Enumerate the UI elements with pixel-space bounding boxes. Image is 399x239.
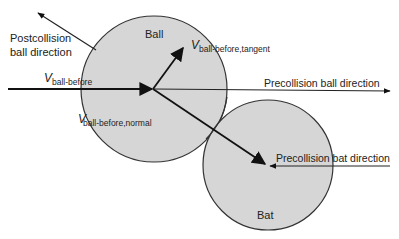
postcollision-label: Postcollision ball direction bbox=[10, 31, 72, 59]
precollision-bat-direction-label: Precollision bat direction bbox=[276, 153, 390, 164]
v-ball-before-subscript: ball-before bbox=[52, 77, 92, 87]
v-tangent-subscript: ball-before,tangent bbox=[199, 44, 270, 54]
bat-label: Bat bbox=[257, 210, 274, 221]
v-symbol: V bbox=[191, 38, 199, 52]
ball-label: Ball bbox=[145, 29, 163, 40]
v-normal-subscript: ball-before,normal bbox=[83, 118, 152, 128]
v-ball-before-label: Vball-before bbox=[44, 72, 92, 84]
v-normal-label: Vball-before,normal bbox=[78, 113, 155, 125]
postcollision-label-line1: Postcollision bbox=[10, 31, 72, 45]
postcollision-label-line2: ball direction bbox=[10, 45, 72, 59]
precollision-ball-direction-label: Precollision ball direction bbox=[264, 78, 380, 89]
v-symbol: V bbox=[44, 71, 52, 85]
v-tangent-label: Vball-before,tangent bbox=[191, 39, 270, 51]
